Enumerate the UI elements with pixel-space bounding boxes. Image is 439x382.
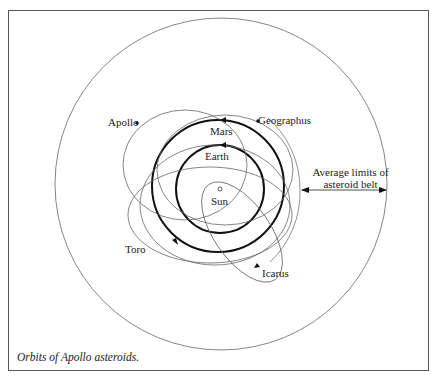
icarus-direction-arrow-icon (254, 263, 260, 268)
belt-label-line1: Average limits of (308, 166, 393, 178)
mars-direction-arrow-icon (220, 117, 226, 123)
sun-label: Sun (211, 195, 228, 207)
toro-label: Toro (125, 243, 146, 255)
geographus-label: Geographus (258, 114, 311, 126)
sun-icon (218, 187, 222, 191)
belt-label-line2: asteroid belt (308, 178, 393, 190)
orbit-diagram (0, 0, 439, 382)
asteroid-belt-label: Average limits of asteroid belt (308, 166, 393, 190)
mars-label: Mars (210, 125, 233, 137)
icarus-label: Icarus (262, 267, 289, 279)
figure-caption: Orbits of Apollo asteroids. (17, 351, 139, 363)
earth-direction-arrow-icon (220, 142, 226, 148)
apollo-label: Apollo (108, 116, 139, 128)
earth-label: Earth (205, 150, 229, 162)
